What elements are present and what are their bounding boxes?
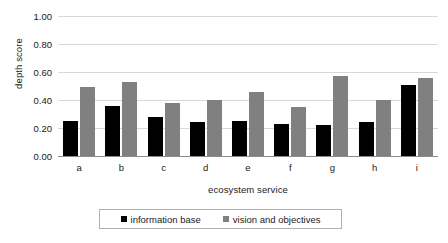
x-axis-tick-label: d bbox=[185, 162, 227, 173]
bar bbox=[401, 85, 416, 156]
bar bbox=[148, 117, 163, 156]
bar-groups bbox=[58, 16, 438, 156]
bar bbox=[122, 82, 137, 156]
x-axis-tick-label: g bbox=[311, 162, 353, 173]
y-axis-tick-label: 0.00 bbox=[34, 151, 53, 162]
bar-group bbox=[396, 16, 438, 156]
bar bbox=[359, 122, 374, 156]
bar-group bbox=[185, 16, 227, 156]
legend-entry: information base bbox=[121, 214, 201, 225]
x-axis-title: ecosystem service bbox=[58, 184, 438, 195]
x-axis-line bbox=[58, 156, 438, 157]
bar-group bbox=[58, 16, 100, 156]
bar-group bbox=[227, 16, 269, 156]
bar-chart-figure: depth score 0.000.200.400.600.801.00 abc… bbox=[0, 0, 448, 243]
legend-entry: vision and objectives bbox=[223, 214, 321, 225]
bar-group bbox=[269, 16, 311, 156]
x-axis-tick-label: a bbox=[58, 162, 100, 173]
bar bbox=[165, 103, 180, 156]
x-axis-tick-label: i bbox=[396, 162, 438, 173]
bar bbox=[232, 121, 247, 156]
bar bbox=[376, 100, 391, 156]
bar-group bbox=[311, 16, 353, 156]
bar-group bbox=[100, 16, 142, 156]
y-axis-tick-label: 1.00 bbox=[34, 11, 53, 22]
bar bbox=[418, 78, 433, 156]
bar bbox=[249, 92, 264, 156]
bar bbox=[291, 107, 306, 156]
bar bbox=[63, 121, 78, 156]
y-axis-tick-label: 0.20 bbox=[34, 123, 53, 134]
x-axis-tick-labels: abcdefghi bbox=[58, 162, 438, 173]
bar bbox=[274, 124, 289, 156]
y-axis-title: depth score bbox=[13, 14, 24, 114]
plot-area: 0.000.200.400.600.801.00 bbox=[58, 16, 438, 156]
bar-group bbox=[142, 16, 184, 156]
y-axis-tick-label: 0.60 bbox=[34, 67, 53, 78]
x-axis-tick-label: e bbox=[227, 162, 269, 173]
legend-swatch bbox=[223, 216, 229, 222]
bar bbox=[190, 122, 205, 156]
bar-group bbox=[354, 16, 396, 156]
x-axis-tick-label: h bbox=[354, 162, 396, 173]
legend-label: information base bbox=[131, 214, 201, 225]
bar bbox=[207, 100, 222, 156]
bar bbox=[333, 76, 348, 156]
x-axis-tick-label: f bbox=[269, 162, 311, 173]
bar bbox=[105, 106, 120, 156]
legend-label: vision and objectives bbox=[233, 214, 321, 225]
bar bbox=[316, 125, 331, 156]
y-axis-tick-label: 0.40 bbox=[34, 95, 53, 106]
legend-swatch bbox=[121, 216, 127, 222]
chart-legend: information basevision and objectives bbox=[99, 209, 342, 229]
y-axis-tick-label: 0.80 bbox=[34, 39, 53, 50]
x-axis-tick-label: c bbox=[142, 162, 184, 173]
bar bbox=[80, 87, 95, 156]
x-axis-tick-label: b bbox=[100, 162, 142, 173]
